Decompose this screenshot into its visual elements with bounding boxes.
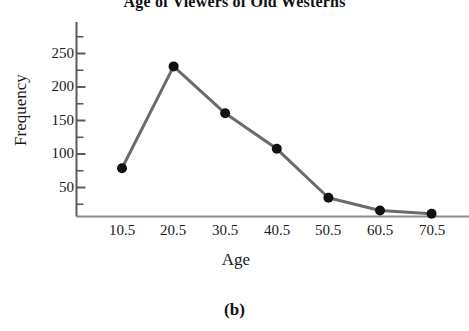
series-line: [122, 66, 432, 213]
data-point-marker: [169, 61, 179, 71]
line-chart-plot: [0, 0, 469, 331]
data-point-marker: [375, 205, 385, 215]
data-point-marker: [220, 108, 230, 118]
axis-layer: [77, 22, 469, 217]
data-point-marker: [427, 209, 437, 219]
y-tick-marks: [77, 37, 86, 205]
data-point-marker: [272, 144, 282, 154]
data-point-marker: [323, 193, 333, 203]
data-series-layer: [117, 61, 437, 218]
data-point-marker: [117, 163, 127, 173]
figure-container: Age of Viewers of Old Westerns Frequency…: [0, 0, 469, 331]
